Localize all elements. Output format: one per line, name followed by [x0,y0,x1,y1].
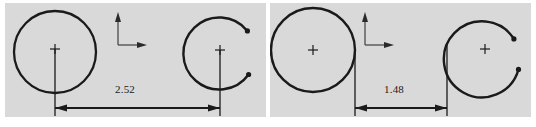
coordinate-axes-icon [115,12,147,48]
dimension-arrow-left [355,105,367,112]
center-mark-left [50,44,60,54]
coordinate-axes-icon [362,12,394,48]
arc-endpoint-dot-bottom [246,72,251,77]
center-mark-right [215,45,225,55]
dimension-value-right: 1.48 [384,83,404,95]
drawing-panel-left: 2.52 [5,3,266,117]
arc-endpoint-dot-top [511,36,516,41]
dimension-value-left: 2.52 [115,83,135,95]
panel-right-graphics [270,3,531,117]
dimension-arrow-right [435,105,447,112]
arc-endpoint-dot-top [245,28,250,33]
arc-endpoint-dot-bottom [516,67,521,72]
drawing-canvas: 2.52 [0,0,536,127]
dimension-line [355,105,447,112]
dimension-arrow-left [55,105,67,112]
dimension-arrow-right [208,105,220,112]
arc-shape-right [444,21,519,97]
drawing-panel-right: 1.48 [270,3,531,117]
dimension-line [55,105,220,112]
arc-shape-right [183,17,248,89]
center-mark-left [308,45,318,55]
center-mark-right [480,44,490,54]
panel-left-graphics [5,3,266,117]
